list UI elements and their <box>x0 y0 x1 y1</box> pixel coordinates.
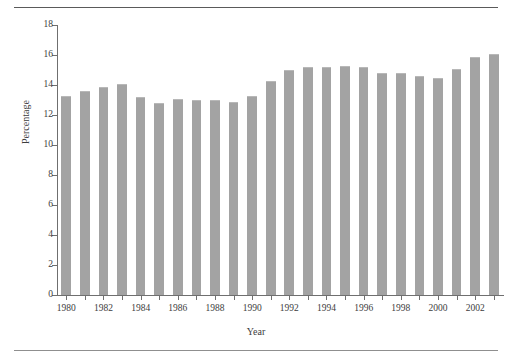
x-tick-mark <box>289 296 290 300</box>
x-tick-mark <box>178 296 179 300</box>
x-tick-mark <box>141 296 142 300</box>
x-tick-mark <box>215 296 216 300</box>
bar <box>470 57 480 296</box>
bar <box>433 78 443 296</box>
y-axis-label: Percentage <box>20 100 32 144</box>
x-axis-ticks: 1980198219841986198819901992199419961998… <box>57 296 504 320</box>
bar <box>99 87 109 296</box>
bar <box>284 70 294 295</box>
bar <box>192 100 202 295</box>
bar-chart-figure: Percentage 024681012141618 1980198219841… <box>0 10 512 346</box>
x-tick-mark <box>271 296 272 300</box>
bar <box>80 91 90 295</box>
x-tick-mark <box>364 296 365 300</box>
x-tick-label: 1992 <box>280 302 299 315</box>
bar <box>415 76 425 295</box>
x-tick-label: 1988 <box>205 302 224 315</box>
y-tick-label: 16 <box>44 48 54 61</box>
bar <box>247 96 257 296</box>
bar <box>322 67 332 295</box>
bar <box>229 102 239 296</box>
x-tick-label: 1998 <box>391 302 410 315</box>
x-tick-label: 1982 <box>94 302 113 315</box>
x-tick-label: 1990 <box>243 302 262 315</box>
x-tick-mark <box>308 296 309 300</box>
x-tick-mark <box>345 296 346 300</box>
plot-area: 024681012141618 <box>57 25 503 295</box>
x-tick-label: 1996 <box>354 302 373 315</box>
y-tick-label: 4 <box>48 228 53 241</box>
x-tick-mark <box>234 296 235 300</box>
page-rule-bottom <box>14 350 498 351</box>
bar <box>359 67 369 295</box>
x-tick-label: 2000 <box>428 302 447 315</box>
y-tick-label: 18 <box>44 18 54 31</box>
x-axis-label: Year <box>0 325 512 338</box>
bar <box>340 66 350 296</box>
x-tick-mark <box>196 296 197 300</box>
x-tick-mark <box>382 296 383 300</box>
x-tick-label: 1980 <box>57 302 76 315</box>
bar <box>377 73 387 295</box>
x-tick-mark <box>401 296 402 300</box>
x-tick-mark <box>494 296 495 300</box>
bar <box>489 54 499 296</box>
bar <box>61 96 71 296</box>
x-tick-label: 2002 <box>466 302 485 315</box>
x-tick-mark <box>66 296 67 300</box>
x-tick-mark <box>252 296 253 300</box>
bar <box>154 103 164 295</box>
bar <box>210 100 220 295</box>
x-tick-mark <box>85 296 86 300</box>
bar <box>452 69 462 296</box>
y-tick-label: 10 <box>44 138 54 151</box>
x-tick-mark <box>438 296 439 300</box>
x-tick-mark <box>419 296 420 300</box>
x-tick-mark <box>159 296 160 300</box>
x-tick-mark <box>103 296 104 300</box>
bar <box>266 81 276 296</box>
bar <box>136 97 146 295</box>
x-tick-mark <box>457 296 458 300</box>
y-tick-label: 12 <box>44 108 54 121</box>
page-rule-top <box>14 7 498 8</box>
x-tick-mark <box>475 296 476 300</box>
y-tick-label: 6 <box>48 198 53 211</box>
bar <box>303 67 313 295</box>
x-tick-label: 1986 <box>168 302 187 315</box>
x-tick-label: 1994 <box>317 302 336 315</box>
y-tick-label: 8 <box>48 168 53 181</box>
y-tick-label: 0 <box>48 288 53 301</box>
y-tick-label: 2 <box>48 258 53 271</box>
bar <box>173 99 183 296</box>
bar <box>396 73 406 295</box>
y-tick-label: 14 <box>44 78 54 91</box>
x-tick-mark <box>122 296 123 300</box>
x-tick-mark <box>326 296 327 300</box>
x-tick-label: 1984 <box>131 302 150 315</box>
bar <box>117 84 127 296</box>
